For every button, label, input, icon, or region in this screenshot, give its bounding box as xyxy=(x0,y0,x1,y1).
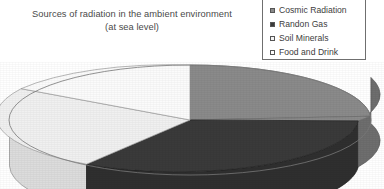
legend-item-randon-gas[interactable]: Randon Gas xyxy=(270,17,365,31)
legend-item-soil-minerals[interactable]: Soil Minerals xyxy=(270,31,365,45)
square-swatch-icon xyxy=(270,36,275,41)
chart-title-line-2: (at sea level) xyxy=(8,21,256,34)
chart-figure: Sources of radiation in the ambient envi… xyxy=(0,0,384,189)
chart-title-line-1: Sources of radiation in the ambient envi… xyxy=(32,9,232,19)
square-swatch-icon xyxy=(270,50,275,55)
pie-slice-cosmic-radiation[interactable] xyxy=(190,65,371,120)
legend-item-label: Cosmic Radiation xyxy=(279,5,347,15)
legend-item-label: Food and Drink xyxy=(279,47,338,57)
legend-item-cosmic-radiation[interactable]: Cosmic Radiation xyxy=(270,3,365,17)
legend-item-food-and-drink[interactable]: Food and Drink xyxy=(270,45,365,59)
legend-item-label: Randon Gas xyxy=(279,19,327,29)
page-title: Sources of radiation in the ambient envi… xyxy=(8,8,256,33)
square-swatch-icon xyxy=(270,8,275,13)
chart-legend: Cosmic Radiation Randon Gas Soil Mineral… xyxy=(262,0,366,60)
pie-chart-svg xyxy=(0,62,384,189)
square-swatch-icon xyxy=(270,22,275,27)
pie-side-cosmic-radiation xyxy=(358,77,380,166)
pie-chart xyxy=(0,62,384,189)
legend-item-label: Soil Minerals xyxy=(279,33,328,43)
